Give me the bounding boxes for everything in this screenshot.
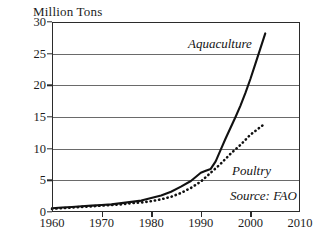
x-axis-tick-label: 2000 bbox=[238, 216, 263, 231]
x-axis-tick-label: 1980 bbox=[139, 216, 164, 231]
series-line-aquaculture bbox=[52, 33, 265, 208]
chart-container: Million Tons 051015202530 19601970198019… bbox=[0, 0, 328, 245]
y-axis-tick-label: 30 bbox=[16, 15, 46, 30]
series-label-aquaculture: Aquaculture bbox=[188, 36, 252, 52]
x-axis-tick-label: 1990 bbox=[188, 216, 213, 231]
y-axis-tick-label: 25 bbox=[16, 46, 46, 61]
plot-area bbox=[52, 22, 300, 212]
series-label-poultry: Poultry bbox=[232, 163, 271, 179]
y-axis-tick-label: 20 bbox=[16, 78, 46, 93]
x-axis-tick-label: 1970 bbox=[89, 216, 114, 231]
y-axis-tick-label: 15 bbox=[16, 110, 46, 125]
x-axis-tick-mark bbox=[250, 212, 251, 217]
series-lines bbox=[52, 22, 300, 212]
x-axis-tick-mark bbox=[102, 212, 103, 217]
x-axis-tick-label: 2010 bbox=[288, 216, 313, 231]
x-axis-tick-mark bbox=[201, 212, 202, 217]
y-axis-tick-label: 5 bbox=[16, 173, 46, 188]
y-axis-tick-label: 10 bbox=[16, 141, 46, 156]
x-axis-tick-label: 1960 bbox=[40, 216, 65, 231]
x-axis-tick-mark bbox=[151, 212, 152, 217]
source-note: Source: FAO bbox=[230, 188, 297, 204]
